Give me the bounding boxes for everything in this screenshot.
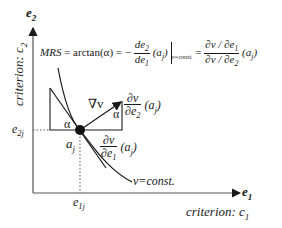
y-criterion-label: criterion: c2 [11, 43, 29, 106]
curve-label: v=const. [133, 175, 175, 187]
gradient-label: ∇v [88, 97, 104, 110]
fraction-de2-de1: de2 de1 [134, 39, 150, 68]
x-axis-label: e1 [242, 185, 252, 202]
x-criterion-label: criterion: c1 [186, 205, 249, 222]
e1j-tick: e1j [73, 196, 85, 212]
e2j-tick: e2j [12, 123, 24, 139]
mrs-formula: MRS = arctan(α) = − de2 de1 (aj)v=const.… [40, 39, 257, 68]
partial-e2-label: ∂v ∂e2 (aj) [124, 92, 161, 121]
y-axis-label: e2 [26, 6, 36, 23]
alpha-right-label: α [113, 108, 119, 120]
alpha-left-label: α [64, 118, 70, 130]
partial-e1-label: ∂v ∂e1 (aj) [100, 134, 137, 163]
fraction-partials: ∂v / ∂e1 ∂v / ∂e2 [204, 39, 239, 68]
point-label: aj [66, 137, 75, 154]
point-aj [75, 125, 85, 135]
